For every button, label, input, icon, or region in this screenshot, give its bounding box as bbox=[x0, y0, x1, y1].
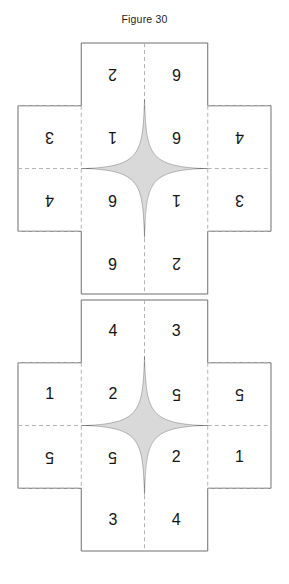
cell-r2c4[interactable]: 4 bbox=[208, 106, 271, 169]
cell-r3c3[interactable]: 1 bbox=[145, 169, 208, 232]
lower-cross-grid: 4 3 1 2 5 5 5 5 2 1 3 4 bbox=[18, 300, 271, 551]
cell-r2c1[interactable]: 3 bbox=[18, 106, 81, 169]
cell-digit: 4 bbox=[172, 512, 181, 528]
cell-r2c4[interactable]: 5 bbox=[208, 363, 271, 426]
cell-r1c2[interactable]: 4 bbox=[81, 300, 144, 363]
cell-digit: 3 bbox=[172, 323, 181, 339]
cell-digit: 2 bbox=[108, 66, 117, 82]
cell-r3c3[interactable]: 2 bbox=[145, 426, 208, 489]
cell-digit: 6 bbox=[108, 255, 117, 271]
cell-digit: 3 bbox=[235, 192, 244, 208]
cell-r1c2[interactable]: 2 bbox=[81, 43, 144, 106]
cell-r2c2[interactable]: 1 bbox=[81, 106, 144, 169]
cell-digit: 5 bbox=[45, 449, 54, 465]
cell-r2c2[interactable]: 2 bbox=[81, 363, 144, 426]
upper-cross-net: 2 6 3 1 6 4 4 6 1 3 6 2 bbox=[18, 43, 271, 294]
upper-cross-grid: 2 6 3 1 6 4 4 6 1 3 6 2 bbox=[18, 43, 271, 294]
cell-r2c1[interactable]: 1 bbox=[18, 363, 81, 426]
cell-r3c4[interactable]: 1 bbox=[208, 426, 271, 489]
cell-r4c3[interactable]: 4 bbox=[145, 488, 208, 551]
cell-digit: 4 bbox=[235, 129, 244, 145]
cell-digit: 3 bbox=[45, 129, 54, 145]
cell-digit: 5 bbox=[108, 449, 117, 465]
cell-digit: 2 bbox=[108, 386, 117, 402]
cell-r4c3[interactable]: 2 bbox=[145, 231, 208, 294]
cell-r3c2[interactable]: 6 bbox=[81, 169, 144, 232]
cell-r1c4 bbox=[208, 43, 271, 106]
cell-digit: 4 bbox=[108, 323, 117, 339]
figure-page: Figure 30 2 6 3 1 6 4 4 6 1 3 6 2 bbox=[0, 0, 289, 584]
cell-r3c1[interactable]: 5 bbox=[18, 426, 81, 489]
cell-r4c1 bbox=[18, 231, 81, 294]
cell-r2c3[interactable]: 5 bbox=[145, 363, 208, 426]
cell-r1c1 bbox=[18, 300, 81, 363]
cell-r3c2[interactable]: 5 bbox=[81, 426, 144, 489]
cell-r3c4[interactable]: 3 bbox=[208, 169, 271, 232]
cell-r4c1 bbox=[18, 488, 81, 551]
cell-digit: 1 bbox=[172, 192, 181, 208]
cell-digit: 6 bbox=[172, 66, 181, 82]
cell-digit: 6 bbox=[108, 192, 117, 208]
cell-digit: 4 bbox=[45, 192, 54, 208]
cell-digit: 1 bbox=[235, 449, 244, 465]
cell-digit: 6 bbox=[172, 129, 181, 145]
cell-r3c1[interactable]: 4 bbox=[18, 169, 81, 232]
cell-digit: 2 bbox=[172, 255, 181, 271]
cell-digit: 2 bbox=[172, 449, 181, 465]
figure-caption: Figure 30 bbox=[0, 13, 289, 25]
cell-r1c3[interactable]: 6 bbox=[145, 43, 208, 106]
cell-r1c4 bbox=[208, 300, 271, 363]
cell-r4c4 bbox=[208, 231, 271, 294]
cell-r4c4 bbox=[208, 488, 271, 551]
cell-digit: 5 bbox=[172, 386, 181, 402]
cell-r2c3[interactable]: 6 bbox=[145, 106, 208, 169]
cell-r4c2[interactable]: 6 bbox=[81, 231, 144, 294]
cell-digit: 1 bbox=[108, 129, 117, 145]
cell-r4c2[interactable]: 3 bbox=[81, 488, 144, 551]
cell-digit: 5 bbox=[235, 386, 244, 402]
cell-digit: 3 bbox=[108, 512, 117, 528]
lower-cross-net: 4 3 1 2 5 5 5 5 2 1 3 4 bbox=[18, 300, 271, 551]
cell-r1c1 bbox=[18, 43, 81, 106]
cell-r1c3[interactable]: 3 bbox=[145, 300, 208, 363]
cell-digit: 1 bbox=[45, 386, 54, 402]
